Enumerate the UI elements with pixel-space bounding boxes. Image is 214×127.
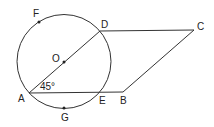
point-o-dot [63,61,66,64]
point-f-dot [38,21,41,24]
geometry-diagram: F D C O 45° A E B G [0,0,214,127]
label-f: F [33,8,39,19]
label-a: A [18,93,25,104]
label-b: B [120,95,127,106]
label-c: C [197,21,204,32]
label-g: G [61,112,69,123]
label-d: D [101,19,108,30]
angle-label: 45° [40,81,55,92]
label-e: E [99,95,106,106]
point-g-dot [63,107,66,110]
label-o: O [52,53,60,64]
